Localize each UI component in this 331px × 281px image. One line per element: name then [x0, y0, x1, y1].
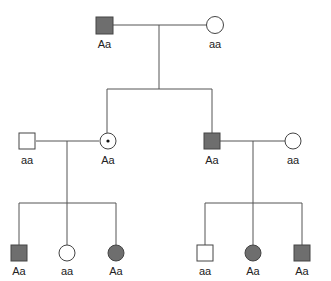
- g3-right-3-genotype: Aa: [295, 265, 309, 277]
- pedigree-chart: Aa aa aa Aa Aa aa Aa aa Aa aa Aa Aa: [0, 0, 331, 281]
- g3-left-1-affected-male: [11, 245, 27, 261]
- g2-left-spouse-genotype: aa: [21, 154, 34, 166]
- g1-mother-genotype: aa: [209, 38, 222, 50]
- g2-son-genotype: Aa: [205, 154, 219, 166]
- g2-daughter-genotype: Aa: [101, 154, 115, 166]
- g2-right-spouse-genotype: aa: [287, 154, 300, 166]
- g2-left-spouse-unaffected-male: [19, 133, 35, 149]
- g3-right-2-affected-female: [245, 245, 261, 261]
- g2-right-spouse-unaffected-female: [285, 133, 301, 149]
- g1-father-genotype: Aa: [98, 38, 112, 50]
- g3-right-1-genotype: aa: [199, 265, 212, 277]
- g1-father-affected-male: [96, 17, 113, 34]
- carrier-dot-icon: [106, 139, 109, 142]
- g3-right-1-unaffected-male: [197, 245, 213, 261]
- g3-right-2-genotype: Aa: [246, 265, 260, 277]
- g2-son-affected-male: [204, 133, 220, 149]
- g3-right-3-affected-male: [294, 245, 310, 261]
- g3-left-3-affected-female: [108, 245, 124, 261]
- g3-left-2-genotype: aa: [61, 265, 74, 277]
- g1-mother-unaffected-female: [207, 17, 224, 34]
- g3-left-2-unaffected-female: [59, 245, 75, 261]
- g3-left-3-genotype: Aa: [109, 265, 123, 277]
- g3-left-1-genotype: Aa: [12, 265, 26, 277]
